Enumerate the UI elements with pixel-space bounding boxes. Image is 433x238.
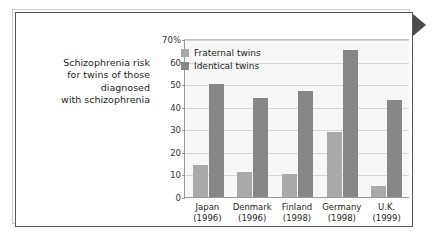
legend-label: Fraternal twins	[194, 48, 261, 58]
x-axis-label-year: (1996)	[185, 213, 230, 224]
bar-group	[275, 40, 320, 197]
x-axis-label: Denmark(1996)	[230, 202, 275, 224]
bar	[282, 174, 297, 197]
y-axis-tick-mark	[182, 40, 185, 41]
bar	[253, 98, 268, 197]
bar	[371, 186, 386, 197]
figure-caption: Schizophrenia risk for twins of those di…	[38, 57, 150, 107]
y-axis-tick-label: 30	[170, 125, 181, 135]
x-axis-label-year: (1998)	[275, 213, 320, 224]
y-axis-tick-mark	[182, 198, 185, 199]
y-axis-tick-mark	[182, 153, 185, 154]
bar	[298, 91, 313, 197]
x-axis-label: Finland(1998)	[275, 202, 320, 224]
y-axis-tick-label: 40	[170, 103, 181, 113]
axis-baseline	[185, 197, 409, 198]
bar-group	[320, 40, 365, 197]
y-axis-tick-label: 10	[170, 170, 181, 180]
x-axis-label-name: Denmark	[230, 202, 275, 213]
x-axis-label-name: Germany	[319, 202, 364, 213]
bar	[343, 50, 358, 197]
y-axis-tick-mark	[182, 85, 185, 86]
legend-item-fraternal: Fraternal twins	[181, 48, 261, 58]
y-axis-tick-label: 0	[176, 193, 181, 203]
x-axis-label-year: (1998)	[319, 213, 364, 224]
caption-line: with schizophrenia	[38, 94, 150, 106]
caption-line: for twins of those	[38, 69, 150, 81]
bar	[209, 84, 224, 197]
legend-label: Identical twins	[194, 61, 259, 71]
chart-legend: Fraternal twins Identical twins	[181, 48, 261, 74]
y-axis-tick-label: 70%	[162, 35, 181, 45]
legend-swatch-identical-icon	[181, 62, 189, 70]
x-axis-label: U.K.(1999)	[364, 202, 409, 224]
x-axis-label-name: Japan	[185, 202, 230, 213]
caption-line: diagnosed	[38, 82, 150, 94]
legend-swatch-fraternal-icon	[181, 49, 189, 57]
x-axis-label-year: (1999)	[364, 213, 409, 224]
figure-frame-inner: Schizophrenia risk for twins of those di…	[15, 12, 413, 227]
y-axis-tick-mark	[182, 175, 185, 176]
x-axis-labels: Japan(1996)Denmark(1996)Finland(1998)Ger…	[185, 202, 409, 224]
y-axis-tick-label: 20	[170, 148, 181, 158]
bar	[237, 172, 252, 197]
bar-group	[364, 40, 409, 197]
y-axis-tick-mark	[182, 108, 185, 109]
y-axis-tick-label: 50	[170, 80, 181, 90]
x-axis-label-year: (1996)	[230, 213, 275, 224]
x-axis-label-name: Finland	[275, 202, 320, 213]
triangle-right-icon	[413, 14, 426, 36]
x-axis-label: Japan(1996)	[185, 202, 230, 224]
x-axis-label-name: U.K.	[364, 202, 409, 213]
bar	[387, 100, 402, 197]
bar-chart: 010203040506070% Fraternal twins Identic…	[159, 39, 412, 229]
caption-line: Schizophrenia risk	[38, 57, 150, 69]
bar	[327, 132, 342, 197]
x-axis-label: Germany(1998)	[319, 202, 364, 224]
bar	[193, 165, 208, 197]
legend-item-identical: Identical twins	[181, 61, 261, 71]
y-axis-tick-mark	[182, 130, 185, 131]
figure-container: Schizophrenia risk for twins of those di…	[0, 0, 433, 238]
y-axis-tick-label: 60	[170, 58, 181, 68]
